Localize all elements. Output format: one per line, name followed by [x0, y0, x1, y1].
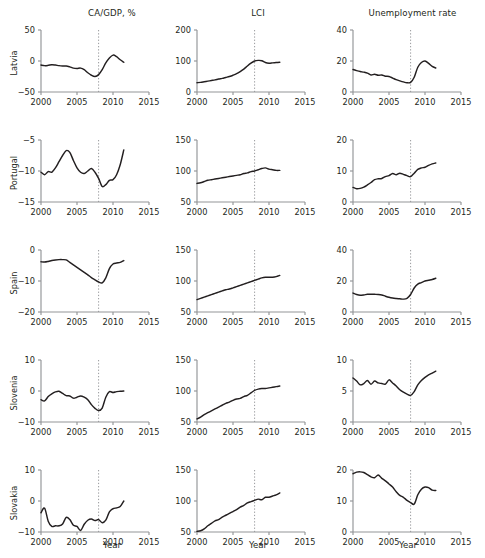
y-tick-label: 10	[337, 496, 347, 506]
y-tick-label: 0	[342, 307, 347, 317]
x-tick-label: 2000	[343, 427, 364, 437]
data-series-line	[353, 278, 436, 299]
data-series-line	[41, 391, 124, 411]
x-tick-label: 2000	[343, 317, 364, 327]
y-tick-label: −10	[18, 166, 35, 176]
y-tick-label: 0	[342, 417, 347, 427]
x-tick-label: 2000	[31, 97, 52, 107]
y-tick-label: 100	[175, 496, 191, 506]
x-tick-label: 2005	[67, 317, 88, 327]
x-tick-label: 2015	[295, 317, 316, 327]
multi-panel-figure: CA/GDP, % LCI Unemployment rate Latvia P…	[0, 0, 485, 558]
y-tick-label: 20	[337, 465, 347, 475]
y-tick-label: 0	[30, 56, 35, 66]
chart-panel-latvia-ca-gdp: −500502000200520102015	[11, 22, 181, 118]
y-tick-label: 150	[175, 355, 191, 365]
x-tick-label: 2000	[31, 207, 52, 217]
x-tick-label: 2015	[295, 537, 316, 547]
y-tick-label: 20	[337, 56, 347, 66]
x-tick-label: 2010	[103, 427, 124, 437]
column-title-ca-gdp: CA/GDP, %	[52, 8, 172, 18]
x-tick-label: 2010	[259, 97, 280, 107]
y-tick-label: 100	[175, 166, 191, 176]
x-tick-label: 2015	[451, 427, 472, 437]
chart-panel-slovakia-unemployment: 010202000200520102015	[323, 462, 485, 558]
y-tick-label: −15	[18, 197, 35, 207]
x-tick-label: 2005	[379, 537, 400, 547]
x-tick-label: 2005	[67, 207, 88, 217]
x-tick-label: 2000	[343, 207, 364, 217]
y-tick-label: 100	[175, 276, 191, 286]
data-series-line	[353, 61, 436, 83]
y-tick-label: −20	[18, 307, 35, 317]
chart-panel-latvia-lci: 01002002000200520102015	[167, 22, 337, 118]
x-tick-label: 2005	[223, 537, 244, 547]
x-tick-label: 2015	[295, 427, 316, 437]
chart-panel-spain-unemployment: 020402000200520102015	[323, 242, 485, 338]
data-series-line	[353, 371, 436, 395]
y-tick-label: 0	[30, 386, 35, 396]
x-tick-label: 2010	[415, 207, 436, 217]
chart-panel-slovakia-ca-gdp: −100102000200520102015	[11, 462, 181, 558]
x-tick-label: 2010	[103, 207, 124, 217]
x-tick-label: 2010	[415, 537, 436, 547]
x-tick-label: 2005	[67, 427, 88, 437]
x-tick-label: 2010	[415, 427, 436, 437]
y-tick-label: 100	[175, 56, 191, 66]
x-tick-label: 2010	[259, 537, 280, 547]
x-tick-label: 2005	[67, 537, 88, 547]
y-tick-label: 0	[30, 245, 35, 255]
x-tick-label: 2010	[103, 97, 124, 107]
x-tick-label: 2015	[451, 317, 472, 327]
data-series-line	[41, 150, 124, 187]
column-title-unemployment-rate: Unemployment rate	[345, 8, 480, 18]
x-tick-label: 2005	[379, 317, 400, 327]
y-tick-label: 50	[181, 417, 191, 427]
x-tick-label: 2000	[187, 207, 208, 217]
y-tick-label: 150	[175, 245, 191, 255]
x-tick-label: 2000	[187, 537, 208, 547]
data-series-line	[353, 472, 436, 505]
y-tick-label: 100	[175, 386, 191, 396]
y-tick-label: 40	[337, 245, 347, 255]
y-tick-label: 0	[342, 197, 347, 207]
chart-panel-portugal-unemployment: 010202000200520102015	[323, 132, 485, 228]
y-tick-label: 0	[30, 496, 35, 506]
x-tick-label: 2010	[259, 317, 280, 327]
x-tick-label: 2000	[31, 537, 52, 547]
y-tick-label: 0	[342, 87, 347, 97]
y-tick-label: −10	[18, 276, 35, 286]
y-tick-label: 5	[342, 386, 347, 396]
y-tick-label: 0	[342, 527, 347, 537]
chart-panel-latvia-unemployment: 020402000200520102015	[323, 22, 485, 118]
data-series-line	[197, 275, 280, 299]
chart-panel-portugal-lci: 501001502000200520102015	[167, 132, 337, 228]
x-tick-label: 2015	[139, 427, 160, 437]
chart-panel-spain-lci: 501001502000200520102015	[167, 242, 337, 338]
chart-panel-portugal-ca-gdp: −15−10−52000200520102015	[11, 132, 181, 228]
y-tick-label: 20	[337, 135, 347, 145]
y-tick-label: 10	[25, 355, 35, 365]
y-tick-label: 50	[181, 197, 191, 207]
x-tick-label: 2000	[187, 97, 208, 107]
x-tick-label: 2015	[139, 207, 160, 217]
chart-panel-slovenia-lci: 501001502000200520102015	[167, 352, 337, 448]
x-tick-label: 2010	[259, 427, 280, 437]
data-series-line	[197, 168, 280, 184]
y-tick-label: 150	[175, 135, 191, 145]
y-tick-label: −10	[18, 527, 35, 537]
y-tick-label: 10	[25, 465, 35, 475]
y-tick-label: 10	[337, 355, 347, 365]
y-tick-label: 200	[175, 25, 191, 35]
x-tick-label: 2010	[415, 317, 436, 327]
x-tick-label: 2000	[31, 427, 52, 437]
data-series-line	[41, 260, 124, 283]
x-tick-label: 2000	[31, 317, 52, 327]
y-tick-label: 50	[25, 25, 35, 35]
x-tick-label: 2005	[223, 317, 244, 327]
x-tick-label: 2015	[451, 207, 472, 217]
data-series-line	[197, 60, 280, 82]
x-tick-label: 2000	[343, 97, 364, 107]
x-tick-label: 2010	[259, 207, 280, 217]
chart-panel-slovenia-unemployment: 05102000200520102015	[323, 352, 485, 448]
